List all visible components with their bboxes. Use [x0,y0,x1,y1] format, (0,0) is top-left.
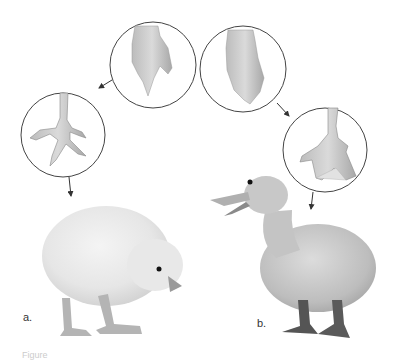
arrow-embryo-to-duck-foot [277,103,289,116]
arrow-chick-foot-to-chick [69,177,71,196]
chick-foot-inset [21,93,105,177]
duckling-illustration [210,176,376,338]
duck-embryo-foot-inset [200,26,286,112]
panel-label-a: a. [23,311,32,323]
arrow-embryo-to-chick-foot [99,80,112,88]
figure-caption: Figure [22,350,48,360]
arrow-duck-foot-to-duckling [311,192,313,209]
chick-illustration [42,206,183,336]
chick-embryo-foot-inset [110,22,196,108]
duck-foot-inset [283,108,367,192]
panel-label-b: b. [257,317,266,329]
